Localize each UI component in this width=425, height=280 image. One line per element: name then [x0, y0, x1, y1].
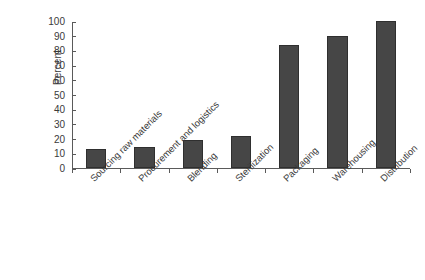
y-tick-mark [72, 36, 76, 37]
x-tick-mark [410, 169, 411, 173]
y-tick-label: 50 [54, 89, 65, 102]
y-tick-mark [72, 80, 76, 81]
x-tick-mark [362, 169, 363, 173]
x-tick-mark [265, 169, 266, 173]
y-tick-mark [72, 154, 76, 155]
y-tick-mark [72, 51, 76, 52]
y-tick-label: 60 [54, 74, 65, 87]
y-tick-mark [72, 66, 76, 67]
y-tick-mark [72, 139, 76, 140]
bar-chart: Percent 0102030405060708090100 Sourcing … [0, 0, 425, 280]
bar [327, 36, 347, 168]
bar [376, 21, 396, 168]
y-tick-mark [72, 110, 76, 111]
y-tick-label: 70 [54, 59, 65, 72]
x-tick-mark [120, 169, 121, 173]
y-tick-label: 40 [54, 103, 65, 116]
x-tick-mark [313, 169, 314, 173]
y-tick-label: 30 [54, 118, 65, 131]
y-tick-label: 80 [54, 44, 65, 57]
y-tick-label: 100 [48, 15, 65, 28]
y-tick-label: 90 [54, 30, 65, 43]
x-tick-mark [169, 169, 170, 173]
y-tick-mark [72, 124, 76, 125]
y-tick-label: 10 [54, 147, 65, 160]
x-tick-mark [72, 169, 73, 173]
y-tick-mark [72, 95, 76, 96]
y-tick-label: 0 [59, 162, 65, 175]
y-tick-label: 20 [54, 133, 65, 146]
bar [279, 45, 299, 168]
x-tick-mark [217, 169, 218, 173]
y-tick-mark [72, 22, 76, 23]
